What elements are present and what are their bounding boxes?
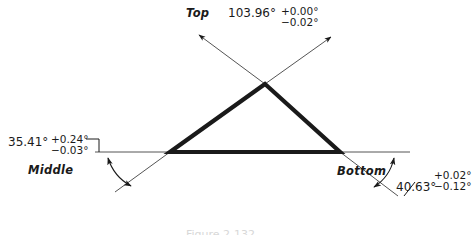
figure-caption: Figure 2-132	[186, 228, 255, 235]
tolerance-lower-bottom: −0.12°	[434, 181, 471, 192]
angle-arc-middle	[108, 158, 131, 186]
triangle-part-outline	[170, 84, 340, 152]
dimension-value-top: 103.96°	[228, 7, 276, 19]
extension-line-left-edge-lower	[115, 152, 170, 192]
extension-line-apex-upper-right	[265, 37, 331, 84]
dimension-value-bottom: 40.63°	[396, 181, 436, 193]
part-label-bottom: Bottom	[337, 166, 386, 178]
part-label-middle: Middle	[28, 165, 73, 177]
extension-line-apex-upper-left	[199, 35, 265, 84]
tolerance-lower-middle: −0.03°	[51, 145, 88, 156]
part-label-top: Top	[186, 8, 209, 20]
engineering-drawing-figure: Top 103.96° +0.00° −0.02° 35.41° +0.24° …	[0, 0, 476, 235]
drawing-canvas	[0, 0, 476, 235]
tolerance-lower-top: −0.02°	[281, 17, 318, 28]
tolerance-stack-middle: +0.24° −0.03°	[51, 134, 88, 157]
tolerance-stack-top: +0.00° −0.02°	[281, 6, 318, 29]
dimension-value-middle: 35.41°	[8, 136, 48, 148]
tolerance-stack-bottom: +0.02° −0.12°	[434, 170, 471, 193]
